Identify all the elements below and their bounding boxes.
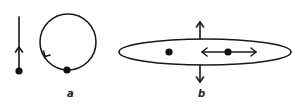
panel-a: a xyxy=(15,14,96,99)
counterclockwise-arrow-icon xyxy=(44,51,51,57)
diagram-canvas: a b xyxy=(0,0,293,103)
circular-trajectory xyxy=(40,14,96,74)
panel-label-a: a xyxy=(67,88,74,99)
particle-dot xyxy=(15,67,22,74)
panel-b: b xyxy=(119,22,291,99)
down-arrow xyxy=(197,65,204,82)
panel-label-b: b xyxy=(198,88,205,99)
particle-dot xyxy=(63,66,70,73)
up-arrow xyxy=(197,22,204,39)
straight-trajectory xyxy=(15,17,22,75)
circle-orbit xyxy=(40,14,96,70)
left-point-dot xyxy=(165,48,172,55)
